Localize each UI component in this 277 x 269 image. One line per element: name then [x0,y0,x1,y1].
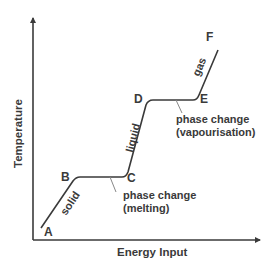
point-label-a: A [44,225,53,239]
vapourisation-annotation-line2: (vapourisation) [176,126,256,138]
melting-annotation-line1: phase change [123,189,196,201]
vapourisation-leader-line [176,100,182,113]
point-label-d: D [134,92,143,106]
x-axis-title: Energy Input [117,246,187,258]
melting-annotation-line2: (melting) [123,202,170,214]
heating-curve-diagram: A B C D E F solid liquid gas phase chang… [0,0,277,269]
melting-leader-line [110,177,116,192]
segment-label-solid: solid [58,189,82,217]
point-label-e: E [200,92,208,106]
vapourisation-annotation-line1: phase change [176,113,249,125]
point-label-c: C [127,171,136,185]
segment-label-liquid: liquid [123,122,142,153]
segment-label-gas: gas [190,56,208,78]
point-label-f: F [206,30,213,44]
point-label-b: B [61,170,70,184]
y-axis-title: Temperature [12,99,24,168]
